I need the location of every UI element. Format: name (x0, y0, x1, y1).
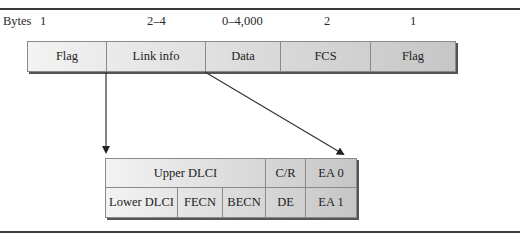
ea1-bit: EA 1 (306, 188, 356, 217)
de-bit: DE (266, 188, 306, 217)
becn-bit: BECN (223, 188, 266, 217)
fecn-bit: FECN (178, 188, 223, 217)
link-info-detail: Upper DLCI C/R EA 0 Lower DLCI FECN BECN… (105, 158, 357, 218)
arrow-right (205, 72, 343, 154)
ea0-bit: EA 0 (306, 159, 356, 188)
upper-dlci: Upper DLCI (106, 159, 266, 188)
lower-dlci: Lower DLCI (106, 188, 178, 217)
cr-bit: C/R (266, 159, 306, 188)
